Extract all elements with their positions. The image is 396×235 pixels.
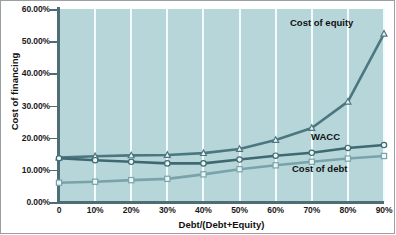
data-point-marker (164, 152, 170, 158)
y-axis-tick-labels: 0.00%10.00%20.00%30.00%40.00%50.00%60.00… (0, 0, 50, 235)
data-point-marker (237, 146, 243, 152)
x-axis-tick-labels: 010%20%30%40%50%60%70%80%90% (0, 205, 396, 219)
data-point-marker (201, 161, 206, 166)
data-point-marker (381, 142, 386, 147)
chart-figure: 0.00%10.00%20.00%30.00%40.00%50.00%60.00… (0, 0, 396, 235)
x-axis-tick-label: 50% (231, 205, 248, 215)
series-label-cost-of-debt: Cost of debt (292, 163, 347, 174)
x-axis-tick-label: 30% (159, 205, 176, 215)
series-label-cost-of-equity: Cost of equity (290, 17, 353, 28)
x-axis-tick-label: 60% (267, 205, 284, 215)
data-point-marker (200, 150, 206, 156)
data-point-marker (93, 179, 98, 184)
data-point-marker (237, 157, 242, 162)
data-point-marker (129, 178, 134, 183)
data-point-marker (129, 159, 134, 164)
y-axis-title: Cost of financing (9, 32, 20, 152)
x-axis-tick-label: 80% (340, 205, 357, 215)
data-point-marker (128, 152, 134, 158)
data-point-marker (345, 156, 350, 161)
y-axis-tick-label: 60.00% (4, 4, 50, 14)
data-point-marker (201, 172, 206, 177)
series-label-wacc: WACC (311, 131, 340, 142)
data-point-marker (56, 180, 61, 185)
data-point-marker (381, 153, 386, 158)
x-axis-title: Debt/(Debt+Equity) (59, 219, 384, 230)
series-layer (0, 0, 396, 235)
x-axis-tick-label: 10% (87, 205, 104, 215)
data-point-marker (56, 156, 61, 161)
x-axis-tick-label: 90% (376, 205, 393, 215)
data-point-marker (273, 153, 278, 158)
x-axis-tick-label: 70% (303, 205, 320, 215)
x-axis-tick-label: 20% (123, 205, 140, 215)
x-axis-tick-label: 0 (57, 205, 62, 215)
data-point-marker (273, 163, 278, 168)
data-point-marker (381, 31, 387, 37)
data-point-marker (345, 145, 350, 150)
data-point-marker (165, 161, 170, 166)
data-point-marker (92, 157, 97, 162)
data-point-marker (237, 167, 242, 172)
data-point-marker (165, 176, 170, 181)
y-axis-tick-label: 10.00% (4, 165, 50, 175)
data-point-marker (273, 137, 279, 143)
x-axis-tick-label: 40% (195, 205, 212, 215)
data-point-marker (309, 150, 314, 155)
